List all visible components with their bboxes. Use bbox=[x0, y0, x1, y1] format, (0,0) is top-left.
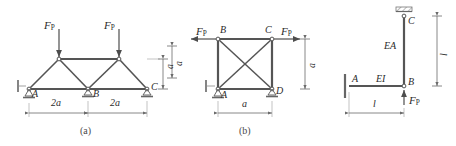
fig-b-dim-a-vertical-left-label: a bbox=[174, 61, 184, 66]
fig-b-joint-D-label: D bbox=[276, 86, 283, 96]
fig-a-joint-C-label: C bbox=[151, 82, 158, 92]
fig-b-dim-a-horizontal-label: a bbox=[242, 99, 247, 109]
fig-c-member-EI-label: EI bbox=[376, 74, 385, 84]
fig-a-dim-2a-left-label: 2a bbox=[51, 98, 61, 108]
fig-c-support-C bbox=[396, 7, 412, 12]
fig-c-dim-vertical bbox=[432, 16, 442, 86]
fig-c-dim-horizontal bbox=[349, 92, 404, 117]
fig-a-caption: (a) bbox=[80, 126, 91, 136]
fig-b-load-right-label: FP bbox=[281, 26, 292, 38]
fig-c-group bbox=[345, 7, 442, 117]
figure-root: FP FP A B C 2a 2a a (a) FP FP B C A D a … bbox=[0, 0, 456, 146]
fig-b-joint-C-label: C bbox=[265, 25, 272, 35]
fig-b-joint-A-label: A bbox=[221, 90, 227, 100]
fig-b-caption: (b) bbox=[239, 126, 251, 136]
fig-c-load-label: FP bbox=[409, 95, 420, 107]
diagram-canvas bbox=[0, 0, 456, 146]
fig-a-dim-2a-right-label: 2a bbox=[110, 98, 120, 108]
fig-a-joint-B-label: B bbox=[93, 89, 99, 99]
fig-c-joint-C-label: C bbox=[408, 16, 415, 26]
fig-b-joint-B-label: B bbox=[220, 25, 226, 35]
fig-b-dim-a-vertical-label: a bbox=[307, 63, 317, 68]
fig-c-dim-l-vertical-label: l bbox=[439, 53, 449, 56]
fig-a-group bbox=[18, 29, 168, 117]
fig-a-dim-horizontal bbox=[29, 101, 147, 117]
fig-c-joint-A-label: A bbox=[352, 74, 358, 84]
fig-a-load-left-label: FP bbox=[44, 20, 55, 32]
fig-c-member-EA-label: EA bbox=[384, 41, 396, 51]
fig-b-load-left-label: FP bbox=[196, 26, 207, 38]
fig-b-group bbox=[167, 37, 310, 117]
fig-a-joint-A-label: A bbox=[32, 89, 38, 99]
fig-a-load-right-label: FP bbox=[104, 20, 115, 32]
fig-c-dim-l-horizontal-label: l bbox=[373, 99, 376, 109]
fig-c-joint-B-label: B bbox=[408, 77, 414, 87]
